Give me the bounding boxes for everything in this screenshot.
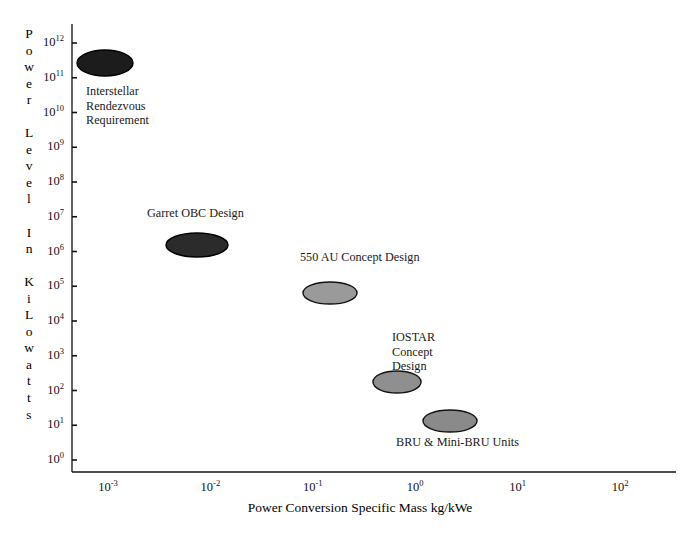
data-point-label: Garret OBC Design (147, 206, 244, 221)
y-axis-title: Power Level In KiLowatts (18, 26, 40, 423)
y-tick-base: 10 (47, 452, 60, 466)
y-tick-exponent: 12 (56, 33, 65, 43)
y-tick-label: 100 (30, 452, 64, 467)
y-tick-label: 1011 (30, 70, 64, 85)
y-tick-label: 103 (30, 348, 64, 363)
y-tick-label: 107 (30, 209, 64, 224)
data-point-label: 550 AU Concept Design (300, 250, 420, 265)
y-tick-exponent: 7 (60, 207, 64, 217)
data-point-ellipse[interactable] (166, 233, 228, 257)
y-tick-base: 10 (43, 105, 56, 119)
y-tick-base: 10 (47, 174, 60, 188)
y-tick-exponent: 11 (56, 68, 64, 78)
y-tick-base: 10 (47, 209, 60, 223)
x-tick-label: 10-3 (88, 480, 128, 495)
x-tick-label: 102 (600, 480, 640, 495)
y-tick-label: 105 (30, 278, 64, 293)
x-tick-label: 100 (395, 480, 435, 495)
data-point-ellipse[interactable] (423, 410, 477, 432)
y-tick-exponent: 9 (60, 137, 64, 147)
y-tick-exponent: 6 (60, 241, 64, 251)
y-tick-base: 10 (47, 278, 60, 292)
y-tick-label: 106 (30, 244, 64, 259)
data-point-label: IOSTAR Concept Design (392, 330, 435, 374)
y-tick-exponent: 4 (60, 311, 64, 321)
y-tick-base: 10 (47, 244, 60, 258)
y-axis-title-letter: l (18, 191, 40, 208)
y-tick-base: 10 (43, 70, 56, 84)
y-axis-title-letter: I (18, 225, 40, 242)
x-tick-exponent: 2 (624, 478, 628, 488)
y-tick-exponent: 2 (60, 380, 64, 390)
x-tick-label: 10-1 (293, 480, 333, 495)
x-tick-exponent: -3 (111, 478, 118, 488)
x-tick-base: 10 (303, 480, 316, 494)
chart-container: Power Level In KiLowatts Power Conversio… (0, 0, 690, 544)
plot-area (0, 0, 690, 544)
y-tick-exponent: 1 (60, 415, 64, 425)
x-tick-label: 10-2 (190, 480, 230, 495)
x-axis-title: Power Conversion Specific Mass kg/kWe (130, 500, 590, 516)
x-tick-base: 10 (98, 480, 111, 494)
data-point-ellipse[interactable] (303, 282, 357, 304)
x-tick-base: 10 (201, 480, 214, 494)
data-point-ellipse[interactable] (373, 371, 421, 393)
y-tick-base: 10 (47, 139, 60, 153)
y-tick-label: 108 (30, 174, 64, 189)
y-tick-base: 10 (47, 348, 60, 362)
x-tick-exponent: -2 (213, 478, 220, 488)
y-tick-label: 1012 (30, 35, 64, 50)
y-tick-base: 10 (47, 313, 60, 327)
y-tick-exponent: 0 (60, 450, 64, 460)
x-tick-base: 10 (612, 480, 625, 494)
y-tick-base: 10 (47, 417, 60, 431)
y-tick-base: 10 (43, 35, 56, 49)
x-tick-exponent: -1 (316, 478, 323, 488)
x-tick-base: 10 (509, 480, 522, 494)
x-tick-base: 10 (407, 480, 420, 494)
y-tick-base: 10 (47, 383, 60, 397)
y-tick-label: 109 (30, 139, 64, 154)
data-point-label: Interstellar Rendezvous Requirement (86, 84, 149, 128)
y-tick-exponent: 5 (60, 276, 64, 286)
y-tick-exponent: 3 (60, 346, 64, 356)
data-point-label: BRU & Mini-BRU Units (396, 435, 519, 450)
y-tick-label: 104 (30, 313, 64, 328)
y-axis-title-letter (18, 258, 40, 275)
y-axis-title-letter: v (18, 158, 40, 175)
x-tick-exponent: 0 (419, 478, 423, 488)
x-tick-exponent: 1 (522, 478, 526, 488)
y-tick-exponent: 8 (60, 172, 64, 182)
data-point-ellipse[interactable] (77, 50, 133, 76)
y-tick-exponent: 10 (56, 102, 65, 112)
y-tick-label: 102 (30, 383, 64, 398)
x-tick-label: 101 (498, 480, 538, 495)
y-tick-label: 1010 (30, 105, 64, 120)
y-tick-label: 101 (30, 417, 64, 432)
